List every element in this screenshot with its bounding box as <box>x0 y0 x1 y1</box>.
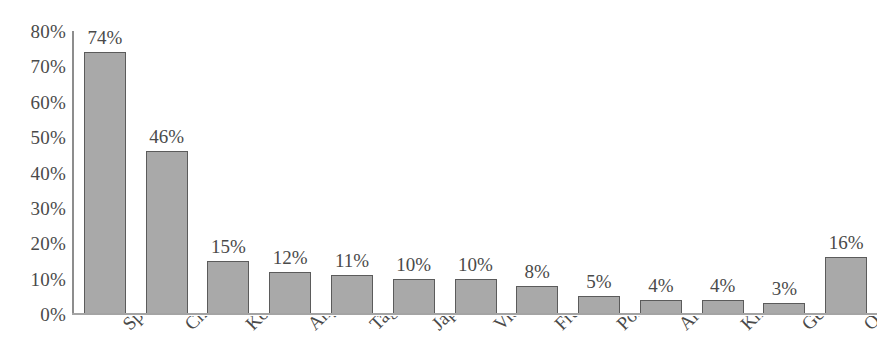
bar-group: 4% <box>640 31 682 314</box>
y-axis-tick-label: 40% <box>0 164 66 183</box>
bar-value-label: 11% <box>317 251 387 270</box>
bar-chart: 80%70%60%50%40%30%20%10%0% 74%46%15%12%1… <box>0 0 889 356</box>
bar <box>702 300 744 314</box>
bar-group: 46% <box>146 31 188 314</box>
bar <box>331 275 373 314</box>
x-axis-tick-label: Korean <box>242 316 295 333</box>
bar <box>207 261 249 314</box>
bar <box>578 296 620 314</box>
bar <box>393 279 435 314</box>
bar <box>146 151 188 314</box>
x-axis-tick-label: German <box>798 316 855 333</box>
x-axis-tick-label: Chinese <box>181 316 238 333</box>
y-axis-tick-label: 0% <box>0 305 66 324</box>
y-axis-tick-label: 50% <box>0 128 66 147</box>
y-axis-tick-label: 60% <box>0 93 66 112</box>
bar-group: 4% <box>702 31 744 314</box>
x-axis-tick-label: Spanish <box>119 316 175 333</box>
bar-group: 5% <box>578 31 620 314</box>
bar-value-label: 4% <box>626 276 696 295</box>
bar-value-label: 15% <box>193 237 263 256</box>
bar-group: 15% <box>207 31 249 314</box>
bar-group: 10% <box>393 31 435 314</box>
bar <box>825 257 867 314</box>
bar <box>269 272 311 314</box>
plot-area: 74%46%15%12%11%10%10%8%5%4%4%3%16% <box>74 31 877 314</box>
bar-value-label: 3% <box>749 279 819 298</box>
x-axis-tick-label: Khmer <box>737 316 788 333</box>
y-axis-tick-labels: 80%70%60%50%40%30%20%10%0% <box>0 22 66 322</box>
y-axis-tick-label: 80% <box>0 22 66 41</box>
bar <box>455 279 497 314</box>
bar <box>516 286 558 314</box>
y-axis-tick-label: 20% <box>0 234 66 253</box>
x-axis-line <box>72 313 877 315</box>
bar-group: 3% <box>763 31 805 314</box>
bar-group: 10% <box>455 31 497 314</box>
bar-group: 8% <box>516 31 558 314</box>
x-axis-tick-label: Japanese <box>428 316 489 333</box>
bar <box>640 300 682 314</box>
bar-group: 12% <box>269 31 311 314</box>
bar-value-label: 4% <box>688 276 758 295</box>
y-axis-tick-label: 10% <box>0 270 66 289</box>
x-axis-tick-label: French <box>551 316 602 333</box>
bar-value-label: 46% <box>132 127 202 146</box>
bar-group: 11% <box>331 31 373 314</box>
x-axis-tick-label: Other <box>860 316 877 333</box>
y-axis-tick-label: 70% <box>0 57 66 76</box>
x-axis-tick-label: Any <box>304 316 341 333</box>
bar-group: 16% <box>825 31 867 314</box>
x-axis-tick-labels: SpanishChineseKoreanAnyTagalogJapaneseVi… <box>74 316 877 356</box>
y-axis-tick-label: 30% <box>0 199 66 218</box>
bar-value-label: 10% <box>441 255 511 274</box>
x-axis-tick-label: Tagalog <box>366 316 423 333</box>
bar-value-label: 5% <box>564 272 634 291</box>
bar-value-label: 10% <box>379 255 449 274</box>
bar-value-label: 16% <box>811 233 881 252</box>
bar-value-label: 12% <box>255 248 325 267</box>
bar <box>84 52 126 314</box>
x-axis-tick-label: Arabic <box>675 316 725 333</box>
bar-value-label: 8% <box>502 262 572 281</box>
bar-group: 74% <box>84 31 126 314</box>
bar-value-label: 74% <box>70 28 140 47</box>
